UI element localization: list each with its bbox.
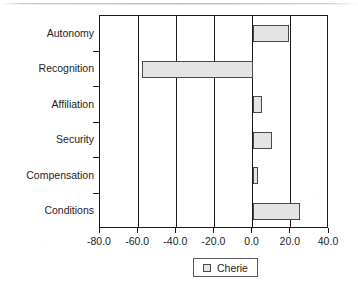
chart-legend: Cherie <box>193 258 258 277</box>
x-label: -40.0 <box>163 235 187 247</box>
bar-affiliation <box>253 96 263 113</box>
grid-line <box>290 16 291 227</box>
grid-line <box>214 16 215 227</box>
x-label: -20.0 <box>202 235 226 247</box>
y-label-autonomy: Autonomy <box>47 27 94 39</box>
legend-label-cherie: Cherie <box>217 262 248 274</box>
x-label: -60.0 <box>125 235 149 247</box>
bar-security <box>253 132 272 149</box>
bar-conditions <box>253 203 301 220</box>
bar-compensation <box>253 167 259 184</box>
zero-line <box>252 16 253 227</box>
y-label-compensation: Compensation <box>26 169 94 181</box>
y-label-conditions: Conditions <box>44 204 94 216</box>
grid-line <box>138 16 139 227</box>
x-label: 0.0 <box>244 235 259 247</box>
x-tick <box>251 228 252 233</box>
x-label: 40.0 <box>318 235 338 247</box>
x-tick <box>99 228 100 233</box>
chart-figure: AutonomyRecognitionAffiliationSecurityCo… <box>0 0 358 284</box>
x-label: 20.0 <box>280 235 300 247</box>
scan-artifact-line-2 <box>0 4 358 5</box>
bar-autonomy <box>253 25 289 42</box>
y-label-security: Security <box>56 133 94 145</box>
bar-recognition <box>142 61 253 78</box>
x-tick <box>328 228 329 233</box>
y-axis-labels: AutonomyRecognitionAffiliationSecurityCo… <box>0 15 94 228</box>
y-label-affiliation: Affiliation <box>52 98 94 110</box>
grid-line <box>176 16 177 227</box>
plot-area <box>99 15 328 228</box>
x-tick <box>175 228 176 233</box>
x-tick <box>289 228 290 233</box>
x-tick <box>213 228 214 233</box>
legend-swatch-cherie <box>203 264 211 272</box>
x-tick <box>137 228 138 233</box>
y-label-recognition: Recognition <box>39 62 94 74</box>
x-label: -80.0 <box>87 235 111 247</box>
